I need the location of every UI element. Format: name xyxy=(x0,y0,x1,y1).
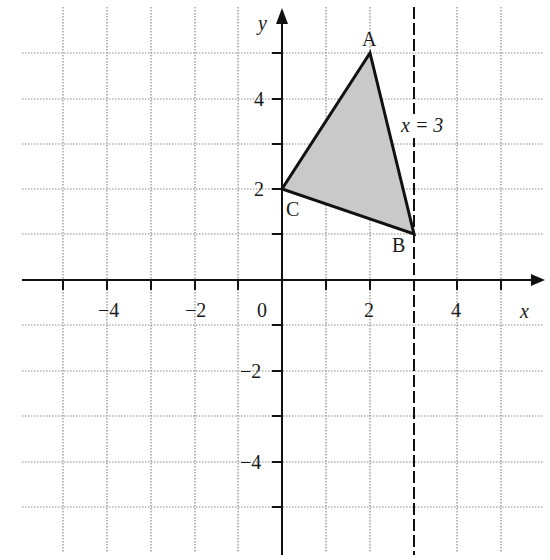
y-axis-label: y xyxy=(256,12,267,35)
axes xyxy=(22,20,535,555)
vertex-label-a: A xyxy=(362,28,377,50)
vertex-label-c: C xyxy=(286,198,299,220)
vertex-label-b: B xyxy=(392,234,405,256)
origin-label: 0 xyxy=(257,299,267,321)
y-axis-arrow-icon xyxy=(276,8,288,24)
x-tick-label-2: 2 xyxy=(364,299,374,321)
x-axis-label: x xyxy=(519,300,529,322)
x-axis-arrow-icon xyxy=(531,274,545,286)
y-tick-label-4: 4 xyxy=(254,88,264,110)
x-tick-label-4: 4 xyxy=(451,299,461,321)
line-label: x = 3 xyxy=(400,114,443,136)
y-tick-label-neg4: −4 xyxy=(240,451,261,473)
coordinate-grid: y x −4 −2 0 2 4 4 2 −2 −4 A B C x = 3 xyxy=(0,0,550,560)
x-tick-label-neg2: −2 xyxy=(185,299,206,321)
x-tick-label-neg4: −4 xyxy=(98,299,119,321)
y-tick-label-neg2: −2 xyxy=(240,360,261,382)
y-tick-label-2: 2 xyxy=(254,178,264,200)
